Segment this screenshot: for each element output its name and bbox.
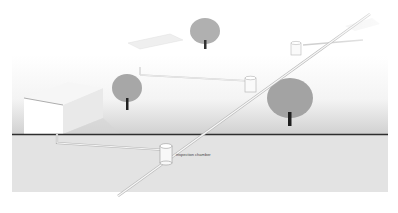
inspection-chamber-main — [160, 144, 172, 165]
tree-back — [190, 18, 220, 49]
inspection-chamber-label: inspection chamber — [176, 152, 211, 157]
drainage-diagram: inspection chamber — [0, 0, 398, 213]
chamber-middle — [245, 76, 256, 92]
fade-overlay — [320, 0, 398, 60]
diagram-canvas — [0, 0, 398, 213]
chamber-far — [291, 41, 301, 55]
